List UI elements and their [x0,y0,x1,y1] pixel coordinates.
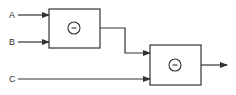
connector-block1-to-block2 [100,28,150,53]
block-diagram [0,0,236,95]
input-label-c: C [9,74,16,84]
input-label-a: A [9,10,15,20]
input-label-b: B [9,37,15,47]
